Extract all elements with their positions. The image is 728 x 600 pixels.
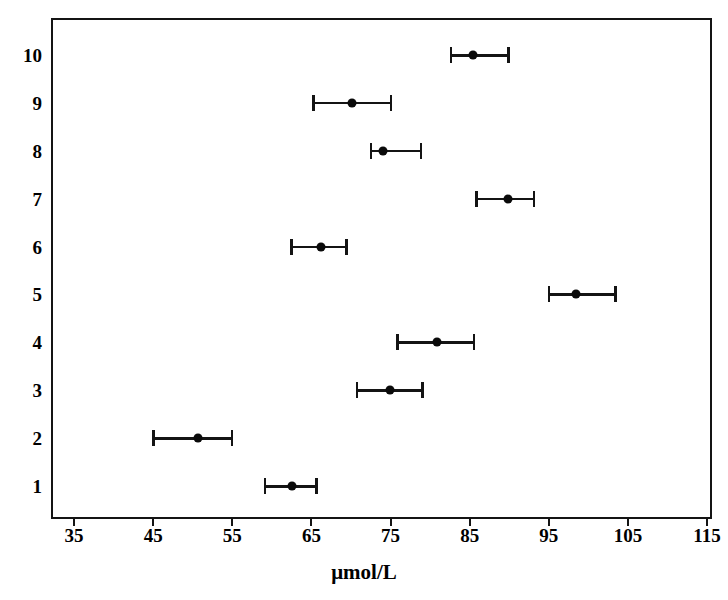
- error-bar-cap-high: [231, 430, 234, 446]
- y-tick-label-8: 8: [33, 141, 43, 160]
- data-point-marker: [385, 386, 394, 395]
- x-tick-label-35: 35: [65, 526, 84, 545]
- error-bar-cap-high: [420, 143, 423, 159]
- error-bar-cap-low: [290, 239, 293, 255]
- error-bar-row-3: [356, 380, 424, 400]
- y-tick-label-1: 1: [33, 477, 43, 496]
- error-bar-line: [152, 437, 233, 440]
- y-tick-label-5: 5: [33, 285, 43, 304]
- error-bar-row-4: [396, 332, 475, 352]
- data-point-marker: [468, 51, 477, 60]
- data-point-marker: [288, 482, 297, 491]
- error-bar-cap-high: [533, 191, 536, 207]
- error-bar-cap-low: [264, 478, 267, 494]
- y-tick-label-9: 9: [33, 93, 43, 112]
- y-tick-label-7: 7: [33, 189, 43, 208]
- x-tick-label-75: 75: [381, 526, 400, 545]
- error-bar-cap-low: [475, 191, 478, 207]
- x-tick-label-85: 85: [460, 526, 479, 545]
- error-bar-row-2: [152, 428, 233, 448]
- error-bar-cap-high: [473, 334, 476, 350]
- data-point-marker: [504, 194, 513, 203]
- data-point-marker: [347, 98, 356, 107]
- error-bar-cap-low: [450, 47, 453, 63]
- error-bar-line: [548, 293, 617, 296]
- error-bar-row-5: [548, 284, 617, 304]
- error-bar-row-8: [370, 141, 422, 161]
- error-bar-cap-high: [421, 382, 424, 398]
- error-bar-cap-low: [152, 430, 155, 446]
- error-bar-row-10: [450, 45, 510, 65]
- error-bar-line: [450, 54, 510, 57]
- x-tick-label-55: 55: [223, 526, 242, 545]
- x-tick-label-95: 95: [539, 526, 558, 545]
- y-tick-label-3: 3: [33, 381, 43, 400]
- data-point-marker: [194, 434, 203, 443]
- error-bar-cap-high: [315, 478, 318, 494]
- data-point-marker: [379, 146, 388, 155]
- error-bar-cap-low: [396, 334, 399, 350]
- y-tick-label-6: 6: [33, 237, 43, 256]
- y-tick-label-2: 2: [33, 429, 43, 448]
- error-bar-chart: 12345678910 35455565758595105115 μmol/L: [0, 0, 728, 600]
- x-tick-label-105: 105: [614, 526, 643, 545]
- error-bar-cap-high: [614, 286, 617, 302]
- x-tick-label-65: 65: [302, 526, 321, 545]
- error-bar-row-7: [475, 189, 535, 209]
- error-bar-row-6: [290, 237, 348, 257]
- y-tick-label-4: 4: [33, 333, 43, 352]
- data-point-marker: [316, 242, 325, 251]
- y-tick-label-10: 10: [23, 46, 42, 65]
- data-point-marker: [433, 338, 442, 347]
- x-tick-label-115: 115: [693, 526, 720, 545]
- error-bar-row-9: [312, 93, 392, 113]
- error-bar-line: [370, 150, 422, 153]
- x-axis-title: μmol/L: [0, 560, 728, 585]
- error-bar-cap-low: [356, 382, 359, 398]
- data-point-marker: [571, 290, 580, 299]
- error-bar-cap-low: [370, 143, 373, 159]
- error-bar-row-1: [264, 476, 318, 496]
- error-bar-cap-high: [507, 47, 510, 63]
- x-tick-label-45: 45: [144, 526, 163, 545]
- error-bar-cap-low: [548, 286, 551, 302]
- error-bar-cap-high: [390, 95, 393, 111]
- error-bar-cap-low: [312, 95, 315, 111]
- error-bar-cap-high: [345, 239, 348, 255]
